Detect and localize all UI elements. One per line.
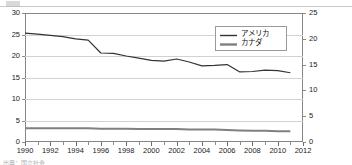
x-axis-major-tick bbox=[303, 142, 304, 146]
chart-page: 051015202530 0510152025 1990199219941996… bbox=[0, 0, 352, 165]
x-axis-major-tick bbox=[278, 142, 279, 146]
series-line bbox=[25, 128, 290, 131]
legend-label-america: アメリカ bbox=[241, 30, 269, 38]
y-axis-right-tick-mark bbox=[303, 39, 306, 40]
page-top-text-fragment bbox=[6, 1, 20, 7]
y-axis-left-tick-label: 30 bbox=[0, 9, 20, 17]
x-axis-major-tick bbox=[252, 142, 253, 146]
x-axis-minor-tick bbox=[265, 142, 266, 145]
y-axis-right-tick-mark bbox=[303, 116, 306, 117]
y-axis-right-tick-label: 25 bbox=[309, 9, 331, 17]
x-axis-minor-tick bbox=[113, 142, 114, 145]
y-axis-left-tick-label: 15 bbox=[0, 74, 20, 82]
y-axis-right-tick-label: 5 bbox=[309, 112, 331, 120]
x-axis-minor-tick bbox=[164, 142, 165, 145]
x-axis-minor-tick bbox=[240, 142, 241, 145]
footer-text-fragment: 出典：国立社会 bbox=[3, 160, 45, 165]
x-axis-tick-label: 2012 bbox=[288, 147, 318, 155]
x-axis-major-tick bbox=[76, 142, 77, 146]
x-axis-minor-tick bbox=[38, 142, 39, 145]
x-axis-major-tick bbox=[126, 142, 127, 146]
x-axis-major-tick bbox=[151, 142, 152, 146]
x-axis-minor-tick bbox=[63, 142, 64, 145]
dual-axis-line-chart: 051015202530 0510152025 1990199219941996… bbox=[0, 8, 352, 152]
legend-swatch-canada bbox=[220, 34, 237, 52]
y-axis-right-tick-label: 15 bbox=[309, 61, 331, 69]
x-axis-major-tick bbox=[177, 142, 178, 146]
y-axis-left-tick-label: 0 bbox=[0, 138, 20, 146]
legend-label-canada: カナダ bbox=[241, 39, 262, 47]
y-axis-left-tick-label: 25 bbox=[0, 31, 20, 39]
y-axis-right-tick-mark bbox=[303, 13, 306, 14]
y-axis-left-tick-label: 20 bbox=[0, 52, 20, 60]
y-axis-right-tick-label: 10 bbox=[309, 86, 331, 94]
x-axis-major-tick bbox=[227, 142, 228, 146]
x-axis-major-tick bbox=[101, 142, 102, 146]
y-axis-right-tick-mark bbox=[303, 90, 306, 91]
x-axis-minor-tick bbox=[88, 142, 89, 145]
chart-legend[interactable]: アメリカ カナダ bbox=[215, 26, 287, 51]
x-axis-major-tick bbox=[25, 142, 26, 146]
x-axis-minor-tick bbox=[215, 142, 216, 145]
x-axis-minor-tick bbox=[290, 142, 291, 145]
y-axis-left-tick-label: 5 bbox=[0, 117, 20, 125]
y-axis-left-tick-label: 10 bbox=[0, 95, 20, 103]
y-axis-right-tick-label: 0 bbox=[309, 138, 331, 146]
legend-item-canada[interactable]: カナダ bbox=[220, 38, 282, 47]
x-axis-major-tick bbox=[50, 142, 51, 146]
y-axis-right-tick-label: 20 bbox=[309, 35, 331, 43]
x-axis-minor-tick bbox=[139, 142, 140, 145]
x-axis-minor-tick bbox=[189, 142, 190, 145]
page-top-divider bbox=[0, 6, 352, 7]
x-axis-major-tick bbox=[202, 142, 203, 146]
y-axis-right-tick-mark bbox=[303, 65, 306, 66]
